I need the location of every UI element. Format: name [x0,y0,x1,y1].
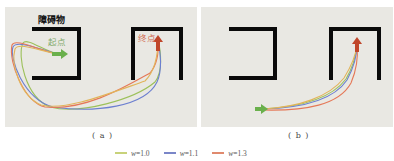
panel-a-canvas: 障碍物 起点 终点 [5,7,197,127]
obstacle-left [229,27,277,80]
legend-swatch-line-icon [115,152,127,153]
panel-b-trajectory-plot [201,7,393,127]
legend-label: w=1.1 [180,149,199,158]
panel-a-trajectory-plot: 障碍物 起点 终点 [5,7,197,127]
path-w-1-1 [263,45,357,109]
legend: w=1.0 w=1.1 w=1.3 [115,148,247,158]
goal-label: 终点 [138,33,156,43]
legend-item-w-1-0: w=1.0 [115,149,150,158]
legend-label: w=1.3 [228,149,247,158]
path-w-1-0 [263,45,357,109]
panel-b-canvas [201,7,393,127]
path-yellow [263,45,357,109]
legend-swatch-line-icon [164,152,176,153]
caption-b: ( b ) [288,131,309,140]
legend-item-w-1-3: w=1.3 [212,149,247,158]
path-w-1-3 [11,39,158,107]
start-arrow-icon [255,104,268,114]
path-w-1-1 [12,39,160,109]
caption-a: ( a ) [92,131,113,140]
start-arrow-icon [52,49,68,59]
trajectory-paths [11,39,160,109]
obstacle-label: 障碍物 [38,14,65,25]
start-label: 起点 [48,37,66,47]
goal-arrow-icon [352,37,362,52]
legend-item-w-1-1: w=1.1 [164,149,199,158]
legend-label: w=1.0 [131,149,150,158]
legend-swatch-line-icon [212,152,224,153]
trajectory-paths [263,45,357,110]
